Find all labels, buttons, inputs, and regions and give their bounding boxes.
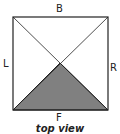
label-left: L	[3, 59, 9, 69]
label-back: B	[56, 4, 63, 14]
caption: top view	[0, 123, 120, 134]
front-shaded-triangle	[13, 63, 108, 110]
label-front: F	[56, 113, 62, 123]
label-right: R	[110, 63, 117, 73]
